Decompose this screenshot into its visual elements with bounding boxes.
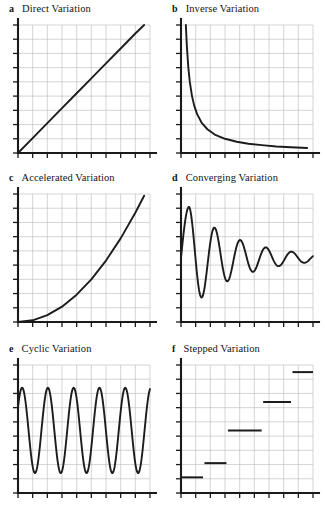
panel-letter-e: e <box>9 343 14 354</box>
panel-title-a: Direct Variation <box>22 3 91 14</box>
plot-area-d <box>169 186 321 334</box>
panel-d: dConverging Variation <box>163 169 325 339</box>
curve-c <box>18 196 144 322</box>
step-series-f <box>181 372 313 477</box>
panel-e: eCyclic Variation <box>0 340 162 510</box>
plot-area-c <box>6 186 158 334</box>
axis-ticks-e <box>13 365 150 498</box>
grid-lines-c <box>18 194 150 322</box>
panel-caption-e: eCyclic Variation <box>9 342 91 356</box>
panel-title-d: Converging Variation <box>186 172 278 183</box>
panel-a: aDirect Variation <box>0 0 162 170</box>
variation-types-figure: aDirect VariationbInverse VariationcAcce… <box>0 0 325 511</box>
plot-area-b <box>169 17 321 165</box>
chart-f <box>169 357 321 505</box>
panel-letter-f: f <box>172 343 175 354</box>
axis-ticks-b <box>176 25 313 158</box>
curve-b <box>186 25 307 148</box>
panel-letter-a: a <box>9 3 14 14</box>
grid-lines-b <box>181 25 313 153</box>
panel-letter-c: c <box>9 172 14 183</box>
grid-lines-f <box>181 365 313 493</box>
panel-b: bInverse Variation <box>163 0 325 170</box>
curve-d <box>181 207 313 298</box>
chart-a <box>6 17 158 165</box>
chart-b <box>169 17 321 165</box>
chart-c <box>6 186 158 334</box>
panel-c: cAccelerated Variation <box>0 169 162 339</box>
chart-e <box>6 357 158 505</box>
panel-caption-d: dConverging Variation <box>172 171 278 185</box>
panel-title-e: Cyclic Variation <box>22 343 92 354</box>
panel-caption-c: cAccelerated Variation <box>9 171 115 185</box>
panel-caption-f: fStepped Variation <box>172 342 260 356</box>
curve-e <box>18 388 150 473</box>
panel-letter-d: d <box>172 172 178 183</box>
plot-area-a <box>6 17 158 165</box>
panel-title-c: Accelerated Variation <box>22 172 115 183</box>
plot-area-f <box>169 357 321 505</box>
panel-title-b: Inverse Variation <box>186 3 260 14</box>
panel-caption-a: aDirect Variation <box>9 2 91 16</box>
axis-ticks-c <box>13 194 150 327</box>
grid-lines-e <box>18 365 150 493</box>
panel-f: fStepped Variation <box>163 340 325 510</box>
curve-a <box>18 25 144 153</box>
panel-caption-b: bInverse Variation <box>172 2 259 16</box>
panel-letter-b: b <box>172 3 178 14</box>
plot-area-e <box>6 357 158 505</box>
chart-d <box>169 186 321 334</box>
panel-title-f: Stepped Variation <box>183 343 259 354</box>
